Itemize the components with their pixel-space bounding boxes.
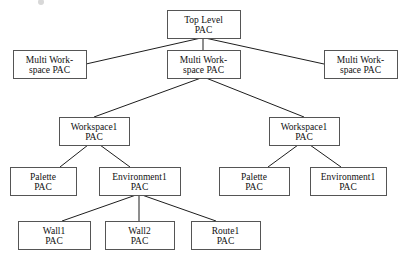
node-multi-workspace-pac-right[interactable]: Multi Work-space PAC: [325, 51, 398, 79]
node-environment1-pac-right[interactable]: Environment1PAC: [311, 168, 387, 196]
node-label-multi-workspace-pac-left-line-1: Multi Work-: [26, 55, 73, 65]
node-label-environment1-pac-left-line-1: Environment1: [112, 172, 167, 182]
edge-workspace1-pac-right-to-environment1-pac-right: [310, 145, 341, 167]
node-label-wall2-pac-line-1: Wall2: [128, 226, 151, 236]
node-multi-workspace-pac-center[interactable]: Multi Work-space PAC: [168, 51, 241, 79]
node-label-route1-pac-line-1: Route1: [212, 226, 240, 236]
node-wall1-pac[interactable]: Wall1PAC: [19, 222, 91, 250]
node-label-workspace1-pac-right-line-2: PAC: [295, 132, 313, 142]
edge-environment1-pac-left-to-route1-pac: [142, 195, 216, 221]
node-label-multi-workspace-pac-left-line-2: space PAC: [29, 65, 70, 75]
edge-workspace1-pac-left-to-environment1-pac-left: [100, 145, 130, 167]
node-label-route1-pac-line-2: PAC: [217, 236, 235, 246]
node-label-wall1-pac-line-2: PAC: [45, 236, 63, 246]
node-label-wall1-pac-line-1: Wall1: [43, 226, 66, 236]
node-workspace1-pac-right[interactable]: Workspace1PAC: [270, 118, 340, 146]
node-wall2-pac[interactable]: Wall2PAC: [106, 222, 175, 250]
node-label-environment1-pac-left-line-2: PAC: [131, 182, 149, 192]
edge-workspace1-pac-left-to-palette-pac-left: [60, 145, 88, 167]
node-label-top-level-pac-line-1: Top Level: [184, 15, 223, 25]
node-label-palette-pac-left-line-2: PAC: [34, 182, 52, 192]
node-label-top-level-pac-line-2: PAC: [195, 25, 213, 35]
node-label-multi-workspace-pac-center-line-2: space PAC: [183, 65, 224, 75]
edge-environment1-pac-left-to-wall1-pac: [62, 195, 136, 221]
node-top-level-pac[interactable]: Top LevelPAC: [168, 11, 241, 39]
node-palette-pac-left[interactable]: PalettePAC: [11, 168, 77, 196]
node-palette-pac-right[interactable]: PalettePAC: [220, 168, 290, 196]
node-workspace1-pac-left[interactable]: Workspace1PAC: [60, 118, 130, 146]
edge-workspace1-pac-right-to-palette-pac-right: [268, 145, 298, 167]
pac-hierarchy-diagram: Top LevelPACMulti Work-space PACMulti Wo…: [0, 0, 407, 262]
edge-multi-workspace-pac-center-to-workspace1-pac-right: [206, 78, 304, 117]
node-label-workspace1-pac-left-line-1: Workspace1: [71, 122, 118, 132]
node-label-environment1-pac-right-line-1: Environment1: [321, 172, 376, 182]
node-label-palette-pac-right-line-2: PAC: [245, 182, 263, 192]
edge-multi-workspace-pac-center-to-workspace1-pac-left: [94, 78, 201, 117]
node-multi-workspace-pac-left[interactable]: Multi Work-space PAC: [14, 51, 87, 79]
node-environment1-pac-left[interactable]: Environment1PAC: [100, 168, 181, 196]
scan-artifact-speck: [38, 0, 44, 5]
node-label-multi-workspace-pac-center-line-1: Multi Work-: [180, 55, 227, 65]
pac-tree-canvas: Top LevelPACMulti Work-space PACMulti Wo…: [0, 0, 407, 262]
node-label-workspace1-pac-right-line-1: Workspace1: [281, 122, 328, 132]
node-label-environment1-pac-right-line-2: PAC: [339, 182, 357, 192]
node-label-workspace1-pac-left-line-2: PAC: [85, 132, 103, 142]
node-label-multi-workspace-pac-right-line-2: space PAC: [340, 65, 381, 75]
node-label-multi-workspace-pac-right-line-1: Multi Work-: [337, 55, 384, 65]
node-label-palette-pac-right-line-1: Palette: [241, 172, 267, 182]
node-label-palette-pac-left-line-1: Palette: [30, 172, 56, 182]
node-label-wall2-pac-line-2: PAC: [131, 236, 149, 246]
node-route1-pac[interactable]: Route1PAC: [192, 222, 261, 250]
nodes-layer: Top LevelPACMulti Work-space PACMulti Wo…: [11, 11, 398, 250]
